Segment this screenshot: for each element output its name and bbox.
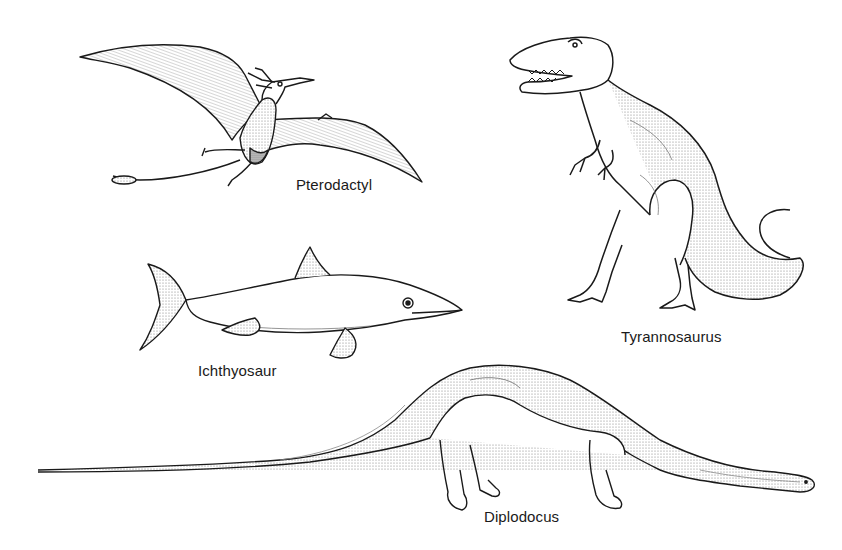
pterodactyl-drawing xyxy=(80,45,422,186)
diplodocus-label: Diplodocus xyxy=(484,508,559,525)
pterodactyl-label: Pterodactyl xyxy=(296,176,372,193)
diplodocus-drawing xyxy=(38,365,814,510)
illustration-plate: Pterodactyl Tyrannosaurus Ichthyosaur Di… xyxy=(0,0,842,550)
ichthyosaur-label: Ichthyosaur xyxy=(198,362,277,379)
ichthyosaur-drawing xyxy=(140,247,462,358)
illustration-canvas xyxy=(0,0,842,550)
tyrannosaurus-drawing xyxy=(510,37,803,310)
tyrannosaurus-label: Tyrannosaurus xyxy=(621,328,722,345)
